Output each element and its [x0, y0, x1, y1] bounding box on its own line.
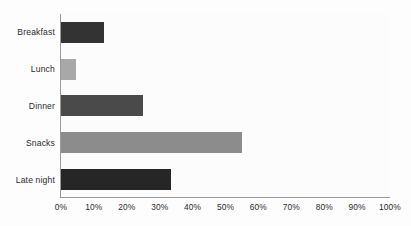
bar-track [61, 14, 390, 51]
bar [61, 132, 242, 153]
x-tick-label: 80% [316, 202, 333, 212]
x-tick-label: 20% [118, 202, 135, 212]
bar [61, 95, 143, 116]
bar [61, 169, 171, 190]
bar-row: Breakfast [0, 14, 411, 51]
x-tick-label: 10% [85, 202, 102, 212]
bar [61, 59, 76, 80]
bar-rows: BreakfastLunchDinnerSnacksLate night [0, 14, 411, 198]
bar-track [61, 88, 390, 125]
bar-chart: BreakfastLunchDinnerSnacksLate night 0%1… [0, 0, 411, 226]
bar-row: Late night [0, 161, 411, 198]
bar-track [61, 124, 390, 161]
bar [61, 22, 104, 43]
x-axis-tick-labels: 0%10%20%30%40%50%60%70%80%90%100% [0, 202, 411, 218]
bar-row: Snacks [0, 124, 411, 161]
bar-row: Lunch [0, 51, 411, 88]
category-label: Snacks [0, 138, 55, 148]
bar-track [61, 51, 390, 88]
x-tick-label: 60% [250, 202, 267, 212]
x-tick-label: 100% [379, 202, 401, 212]
bar-row: Dinner [0, 88, 411, 125]
bar-track [61, 161, 390, 198]
x-tick-label: 40% [184, 202, 201, 212]
x-tick-label: 90% [349, 202, 366, 212]
category-label: Late night [0, 175, 55, 185]
x-tick-label: 30% [151, 202, 168, 212]
category-label: Dinner [0, 101, 55, 111]
category-label: Lunch [0, 64, 55, 74]
x-tick-label: 0% [55, 202, 67, 212]
category-label: Breakfast [0, 27, 55, 37]
x-tick-label: 50% [217, 202, 234, 212]
x-tick-label: 70% [283, 202, 300, 212]
